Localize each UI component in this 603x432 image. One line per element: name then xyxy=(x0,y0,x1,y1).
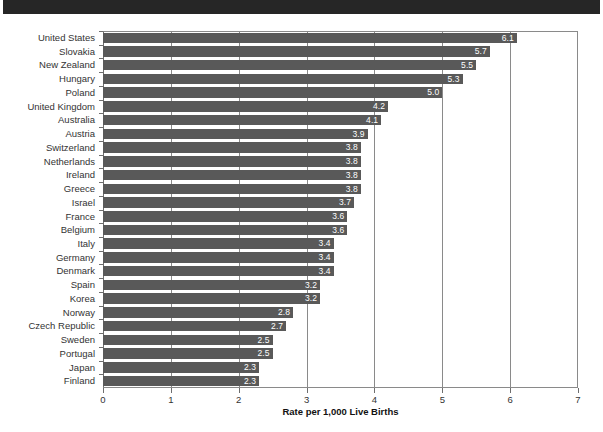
y-axis-tick xyxy=(99,100,103,101)
y-axis-label: New Zealand xyxy=(0,58,95,72)
bar-row: 5.7 xyxy=(103,45,578,59)
y-axis-tick xyxy=(99,347,103,348)
x-axis-tick-label: 2 xyxy=(224,394,254,405)
bar xyxy=(103,252,334,263)
y-axis-tick xyxy=(99,58,103,59)
bar-row: 3.7 xyxy=(103,196,578,210)
bar-row: 4.2 xyxy=(103,100,578,114)
bar-value-label: 5.5 xyxy=(454,59,473,71)
bar-row: 3.8 xyxy=(103,168,578,182)
x-axis-tick-label: 3 xyxy=(292,394,322,405)
title-band xyxy=(3,0,600,14)
bar-value-label: 2.5 xyxy=(251,334,270,346)
bar xyxy=(103,266,334,277)
bar xyxy=(103,197,354,208)
x-axis-tick xyxy=(307,388,308,393)
bar-row: 3.6 xyxy=(103,223,578,237)
bar xyxy=(103,280,320,291)
y-axis-label: Austria xyxy=(0,127,95,141)
bar-row: 3.6 xyxy=(103,210,578,224)
y-axis-tick xyxy=(99,113,103,114)
y-axis-label: Spain xyxy=(0,278,95,292)
bar-chart: 6.15.75.55.35.04.24.13.93.83.83.83.83.73… xyxy=(0,14,603,432)
y-axis-label: Hungary xyxy=(0,72,95,86)
y-axis-label: Switzerland xyxy=(0,141,95,155)
y-axis-tick xyxy=(99,168,103,169)
bar-value-label: 3.2 xyxy=(298,292,317,304)
y-axis-tick xyxy=(99,210,103,211)
y-axis-tick xyxy=(99,306,103,307)
bar xyxy=(103,225,347,236)
y-axis-label: France xyxy=(0,210,95,224)
y-axis-label: Germany xyxy=(0,251,95,265)
bar-value-label: 3.8 xyxy=(339,183,358,195)
bar-row: 3.8 xyxy=(103,182,578,196)
bar-row: 6.1 xyxy=(103,31,578,45)
bar-value-label: 3.8 xyxy=(339,155,358,167)
x-axis-tick xyxy=(171,388,172,393)
y-axis-label: Poland xyxy=(0,86,95,100)
bar-value-label: 3.6 xyxy=(325,224,344,236)
bar xyxy=(103,348,273,359)
bar-value-label: 5.0 xyxy=(420,86,439,98)
y-axis-label: Australia xyxy=(0,113,95,127)
y-axis-tick xyxy=(99,223,103,224)
y-axis-label: Czech Republic xyxy=(0,319,95,333)
bar-row: 2.8 xyxy=(103,306,578,320)
bar-row: 2.7 xyxy=(103,319,578,333)
bar xyxy=(103,46,490,57)
x-axis-tick-label: 0 xyxy=(88,394,118,405)
bar xyxy=(103,156,361,167)
bar-row: 3.4 xyxy=(103,264,578,278)
y-axis-label: United Kingdom xyxy=(0,100,95,114)
bar-row: 5.5 xyxy=(103,58,578,72)
x-axis-title: Rate per 1,000 Live Births xyxy=(103,406,578,417)
bar-value-label: 3.6 xyxy=(325,210,344,222)
bar xyxy=(103,293,320,304)
y-axis-tick xyxy=(99,251,103,252)
y-axis-label: Japan xyxy=(0,361,95,375)
y-axis-tick xyxy=(99,374,103,375)
bar-value-label: 4.1 xyxy=(359,114,378,126)
bar-value-label: 2.8 xyxy=(271,306,290,318)
y-axis-label: Finland xyxy=(0,374,95,388)
x-axis-tick xyxy=(442,388,443,393)
bar-row: 3.2 xyxy=(103,278,578,292)
y-axis-tick xyxy=(99,361,103,362)
y-axis-tick xyxy=(99,292,103,293)
y-axis-tick xyxy=(99,72,103,73)
bar-row: 3.8 xyxy=(103,141,578,155)
bar xyxy=(103,129,368,140)
x-axis-tick xyxy=(578,388,579,393)
bar-value-label: 6.1 xyxy=(495,32,514,44)
x-axis-tick xyxy=(374,388,375,393)
bar-row: 2.3 xyxy=(103,361,578,375)
y-axis-tick xyxy=(99,196,103,197)
bar-row: 2.5 xyxy=(103,347,578,361)
y-axis-tick xyxy=(99,155,103,156)
bar xyxy=(103,101,388,112)
bar xyxy=(103,60,476,71)
y-axis-label: Norway xyxy=(0,306,95,320)
bar-value-label: 3.2 xyxy=(298,279,317,291)
y-axis-label: Israel xyxy=(0,196,95,210)
bar xyxy=(103,170,361,181)
bar-value-label: 2.7 xyxy=(264,320,283,332)
y-axis-label: Belgium xyxy=(0,223,95,237)
bar-value-label: 3.4 xyxy=(312,237,331,249)
y-axis-label: Ireland xyxy=(0,168,95,182)
bar-value-label: 5.3 xyxy=(441,73,460,85)
bar-value-label: 2.3 xyxy=(237,361,256,373)
x-axis-tick xyxy=(239,388,240,393)
x-axis-tick xyxy=(103,388,104,393)
y-axis-label: Italy xyxy=(0,237,95,251)
y-axis-tick xyxy=(99,86,103,87)
bar-value-label: 3.4 xyxy=(312,265,331,277)
y-axis-label: Greece xyxy=(0,182,95,196)
bar-value-label: 4.2 xyxy=(366,100,385,112)
bar-row: 5.0 xyxy=(103,86,578,100)
x-axis-tick-label: 4 xyxy=(359,394,389,405)
x-axis-tick-label: 5 xyxy=(427,394,457,405)
bar-row: 3.9 xyxy=(103,127,578,141)
x-axis-tick-label: 1 xyxy=(156,394,186,405)
